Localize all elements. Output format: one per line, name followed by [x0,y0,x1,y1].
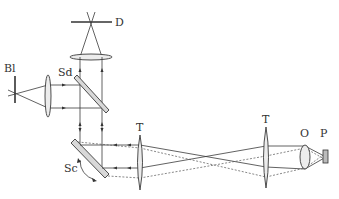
detector [71,12,112,57]
optical-diagram: D Bl Sd Sc [0,0,339,199]
label-tube-lens-1: T [136,121,144,134]
label-objective: O [300,127,309,140]
sample [323,150,328,163]
label-scanner: Sc [64,162,78,175]
label-dichroic: Sd [58,66,73,79]
objective-lens [300,145,310,169]
detector-lens [70,54,112,60]
label-tube-lens-2: T [262,113,270,126]
label-detector: D [115,16,124,29]
tube-lens-1 [138,135,143,190]
tube-lens-2 [264,127,269,188]
dichroic-splitter [74,75,109,113]
label-sample: P [320,127,328,140]
source-lens [45,75,51,117]
scan-beams [78,142,326,178]
label-blocker: Bl [4,62,16,75]
